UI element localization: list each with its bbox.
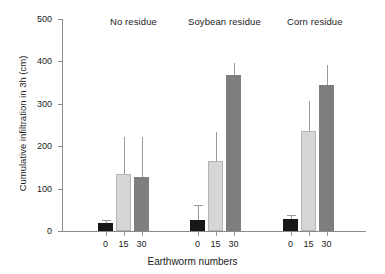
x-tick-label: 15: [303, 239, 313, 249]
y-tick-mark: [58, 189, 62, 190]
error-bar: [198, 205, 199, 220]
y-tick-label: 0: [26, 226, 52, 236]
x-tick-mark: [234, 232, 235, 236]
y-tick-label: 300: [26, 99, 52, 109]
bar: [98, 223, 113, 231]
x-tick-mark: [291, 232, 292, 236]
error-bar-cap: [287, 215, 296, 216]
x-tick-mark: [124, 232, 125, 236]
error-bar: [124, 137, 125, 174]
y-tick-mark: [58, 61, 62, 62]
x-tick-mark: [327, 232, 328, 236]
bar: [301, 131, 316, 231]
x-tick-mark: [216, 232, 217, 236]
x-tick-label: 0: [288, 239, 293, 249]
x-tick-label: 30: [321, 239, 331, 249]
x-tick-mark: [309, 232, 310, 236]
error-bar: [142, 137, 143, 177]
group-header-no-residue: No residue: [110, 16, 157, 27]
x-tick-label: 0: [103, 239, 108, 249]
bar: [116, 174, 131, 231]
x-tick-label: 30: [136, 239, 146, 249]
x-tick-label: 30: [228, 239, 238, 249]
bar: [134, 177, 149, 231]
infiltration-bar-chart: No residue Soybean residue Corn residue …: [0, 0, 385, 274]
error-bar: [309, 101, 310, 132]
bar: [283, 219, 298, 231]
x-tick-mark: [106, 232, 107, 236]
bar: [208, 161, 223, 231]
group-header-corn-residue: Corn residue: [287, 16, 343, 27]
x-tick-mark: [142, 232, 143, 236]
y-tick-label: 400: [26, 56, 52, 66]
y-tick-mark: [58, 19, 62, 20]
error-bar-cap: [194, 205, 203, 206]
error-bar-cap: [102, 220, 111, 221]
y-tick-label: 100: [26, 184, 52, 194]
y-tick-mark: [58, 231, 62, 232]
x-axis-line: [62, 231, 366, 232]
y-axis-line: [62, 19, 63, 231]
bar: [190, 220, 205, 231]
error-bar: [216, 132, 217, 161]
group-header-soybean-residue: Soybean residue: [188, 16, 261, 27]
x-tick-label: 15: [118, 239, 128, 249]
y-tick-label: 200: [26, 141, 52, 151]
bar: [319, 85, 334, 231]
x-tick-label: 0: [195, 239, 200, 249]
y-tick-mark: [58, 104, 62, 105]
bar: [226, 75, 241, 231]
y-axis-title: Cumulative infiltration in 3h (cm): [17, 44, 28, 204]
y-tick-label: 500: [26, 14, 52, 24]
error-bar: [327, 65, 328, 85]
y-tick-mark: [58, 146, 62, 147]
x-tick-label: 15: [210, 239, 220, 249]
x-axis-title: Earthworm numbers: [0, 256, 385, 267]
error-bar: [234, 63, 235, 76]
x-tick-mark: [198, 232, 199, 236]
